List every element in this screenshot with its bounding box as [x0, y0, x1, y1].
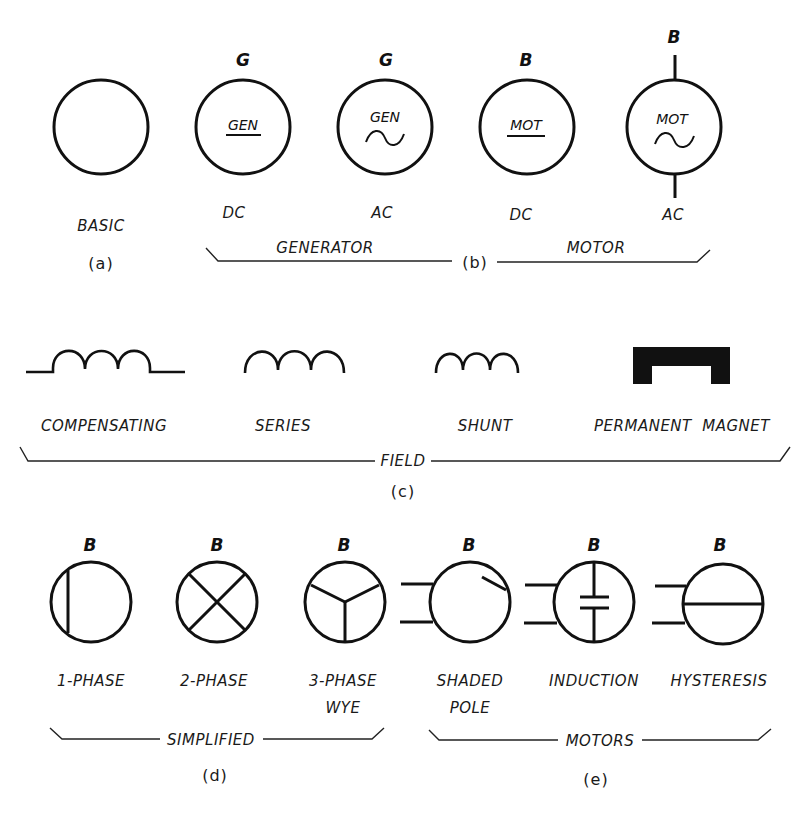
field-label: COMPENSATING [41, 417, 167, 435]
field-label: PERMANENT MAGNET [594, 417, 771, 435]
bracket-left [429, 730, 558, 740]
permanent-magnet-icon [633, 347, 730, 384]
phase-label: 2-PHASE [180, 672, 248, 690]
basic-label: BASIC [77, 217, 124, 235]
bracket-right [642, 729, 771, 740]
symbol-letter: B [520, 50, 533, 70]
machine-symbols-diagram: BASIC (a) G GEN DC G GEN AC B MOT DC [0, 0, 804, 816]
phase-label: 3-PHASE [309, 672, 377, 690]
type-label: DC [509, 206, 532, 224]
type-label: AC [370, 204, 393, 222]
machine-circle [51, 562, 131, 642]
one-phase-symbol: B 1-PHASE [51, 535, 131, 690]
symbol-letter: G [236, 50, 250, 70]
field-label: SHUNT [458, 417, 514, 435]
section-d: B 1-PHASE B 2-PHASE B 3-PHASE WYE SIMPLI… [50, 535, 385, 785]
machine-circle [627, 80, 721, 174]
motor-label-line2: POLE [450, 699, 491, 717]
motor-label: HYSTERESIS [671, 672, 768, 690]
symbol-letter: B [588, 535, 601, 555]
inner-text: MOT [510, 117, 543, 133]
compensating-coil-icon [26, 351, 185, 372]
hysteresis-motor-symbol: B HYSTERESIS [652, 535, 767, 690]
dc-motor-symbol: B MOT DC [480, 50, 574, 224]
caption-d: (d) [202, 766, 228, 785]
phase-label: 1-PHASE [57, 672, 125, 690]
phase-label-line2: WYE [326, 699, 361, 717]
motor-label: SHADED [437, 672, 504, 690]
bracket-right [263, 728, 384, 739]
sine-wave-icon [655, 133, 694, 147]
shaded-pole-motor-symbol: B SHADED POLE [400, 535, 510, 717]
section-e: B SHADED POLE B INDUCTION B H [400, 535, 771, 789]
generator-group-label: GENERATOR [276, 239, 373, 257]
two-phase-symbol: B 2-PHASE [177, 535, 257, 690]
field-group-label: FIELD [381, 452, 426, 470]
caption-e: (e) [583, 770, 608, 789]
caption-c: (c) [391, 482, 415, 501]
field-label: SERIES [255, 417, 311, 435]
section-a: BASIC (a) [54, 80, 148, 273]
three-phase-wye-symbol: B 3-PHASE WYE [305, 535, 385, 717]
symbol-letter: B [463, 535, 476, 555]
bracket-left [20, 447, 375, 461]
basic-machine-symbol [54, 80, 148, 174]
section-b: G GEN DC G GEN AC B MOT DC B MOT [196, 27, 721, 272]
ac-generator-symbol: G GEN AC [338, 50, 432, 222]
symbol-letter: B [668, 27, 681, 47]
bracket-left [50, 728, 160, 739]
section-c: COMPENSATING SERIES SHUNT PERMANENT MAGN… [20, 347, 790, 501]
symbol-letter: B [211, 535, 224, 555]
inner-text: GEN [228, 117, 259, 133]
ac-motor-symbol: B MOT AC [627, 27, 721, 224]
simplified-group-label: SIMPLIFIED [167, 731, 255, 749]
inner-text: MOT [656, 111, 689, 127]
bracket-right [431, 447, 790, 461]
machine-circle [430, 562, 510, 642]
shunt-coil-icon [436, 354, 518, 374]
type-label: AC [661, 206, 684, 224]
symbol-letter: B [338, 535, 351, 555]
series-coil-icon [245, 351, 344, 373]
caption-b: (b) [462, 253, 488, 272]
motors-group-label: MOTORS [566, 732, 635, 750]
winding-line [311, 585, 345, 602]
sine-wave-icon [366, 131, 404, 145]
caption-a: (a) [88, 254, 113, 273]
inner-text: GEN [370, 109, 401, 125]
machine-circle [338, 80, 432, 174]
symbol-letter: B [84, 535, 97, 555]
symbol-letter: B [714, 535, 727, 555]
induction-motor-symbol: B INDUCTION [524, 535, 639, 690]
symbol-letter: G [379, 50, 393, 70]
motor-label: INDUCTION [549, 672, 639, 690]
motor-group-label: MOTOR [567, 239, 626, 257]
winding-line [345, 585, 379, 602]
type-label: DC [222, 204, 245, 222]
dc-generator-symbol: G GEN DC [196, 50, 290, 222]
